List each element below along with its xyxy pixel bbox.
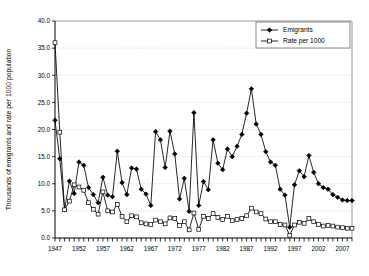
- legend-label: Rate per 1000: [283, 37, 325, 45]
- data-point: [235, 144, 240, 149]
- y-axis-label: Thousands of emigrants and rate per 1000…: [5, 48, 13, 210]
- data-point: [293, 223, 297, 227]
- data-point: [206, 217, 210, 221]
- data-point: [326, 224, 330, 228]
- x-axis: 1947195219571962196719721977198219871992…: [48, 238, 352, 252]
- data-point: [91, 207, 95, 211]
- x-tick-label: 1947: [48, 245, 63, 252]
- data-point: [292, 183, 297, 188]
- data-point: [144, 222, 148, 226]
- data-point: [264, 217, 268, 221]
- y-tick-label: 0.0: [41, 234, 50, 241]
- x-tick-label: 1997: [288, 245, 303, 252]
- data-point: [149, 223, 153, 227]
- data-point: [273, 220, 277, 224]
- x-tick-label: 2002: [311, 245, 326, 252]
- data-point: [154, 218, 158, 222]
- y-tick-label: 40.0: [38, 17, 51, 24]
- data-point: [172, 152, 177, 157]
- x-tick-label: 1987: [240, 245, 255, 252]
- data-point: [106, 209, 110, 213]
- data-point: [240, 132, 245, 137]
- legend-label: Emigrants: [283, 26, 313, 34]
- data-point: [53, 118, 58, 123]
- data-point: [111, 210, 115, 214]
- data-point: [197, 227, 201, 231]
- data-point: [321, 224, 325, 228]
- data-point: [101, 175, 106, 180]
- y-tick-label: 35.0: [38, 44, 51, 51]
- data-point: [135, 215, 139, 219]
- data-point: [105, 193, 110, 198]
- data-point: [134, 167, 139, 172]
- y-tick-label: 15.0: [38, 153, 51, 160]
- y-tick-label: 5.0: [41, 207, 50, 214]
- data-point: [96, 212, 100, 216]
- series-rate-per-1000: [53, 41, 354, 237]
- data-point: [263, 149, 268, 154]
- data-point: [345, 198, 350, 203]
- x-tick-label: 1977: [192, 245, 207, 252]
- data-point: [110, 194, 115, 199]
- data-point: [273, 163, 278, 168]
- data-point: [187, 228, 191, 232]
- data-point: [230, 154, 235, 159]
- data-point: [331, 224, 335, 228]
- data-point: [101, 190, 105, 194]
- data-point: [77, 185, 81, 189]
- x-tick-label: 1957: [96, 245, 111, 252]
- emigration-chart: 0.05.010.015.020.025.030.035.040.0 19471…: [0, 0, 369, 276]
- data-point: [311, 170, 316, 175]
- data-point: [182, 176, 187, 181]
- data-point: [192, 211, 196, 215]
- data-point: [221, 218, 225, 222]
- grid-group: [55, 48, 352, 211]
- data-point: [259, 132, 264, 137]
- data-point: [196, 203, 201, 208]
- data-point: [307, 153, 312, 158]
- data-point: [268, 39, 272, 43]
- data-point: [254, 210, 258, 214]
- data-point: [287, 225, 292, 230]
- data-point: [211, 212, 215, 216]
- data-point: [192, 110, 197, 115]
- data-point: [341, 226, 345, 230]
- data-point: [96, 200, 101, 205]
- data-point: [249, 87, 254, 92]
- data-point: [158, 220, 162, 224]
- data-point: [115, 149, 120, 154]
- data-point: [259, 212, 263, 216]
- data-point: [163, 222, 167, 226]
- data-point: [288, 233, 292, 237]
- y-tick-label: 10.0: [38, 180, 51, 187]
- data-point: [335, 195, 340, 200]
- data-point: [168, 216, 172, 220]
- data-point: [278, 223, 282, 227]
- data-point: [139, 221, 143, 225]
- data-point: [202, 214, 206, 218]
- data-point: [201, 179, 206, 184]
- data-point: [149, 203, 154, 208]
- data-point: [350, 198, 355, 203]
- data-point: [67, 179, 72, 184]
- data-point: [336, 225, 340, 229]
- data-point: [72, 183, 76, 187]
- data-point: [130, 214, 134, 218]
- data-point: [312, 220, 316, 224]
- data-point: [226, 214, 230, 218]
- data-point: [87, 201, 91, 205]
- data-point: [125, 220, 129, 224]
- data-point: [67, 199, 71, 203]
- data-point: [230, 219, 234, 223]
- x-tick-label: 1962: [120, 245, 135, 252]
- data-point: [182, 220, 186, 224]
- y-axis: 0.05.010.015.020.025.030.035.040.0: [38, 17, 55, 241]
- data-point: [269, 220, 273, 224]
- data-point: [173, 217, 177, 221]
- data-point: [244, 111, 249, 116]
- y-tick-label: 30.0: [38, 72, 51, 79]
- chart-canvas: 0.05.010.015.020.025.030.035.040.0 19471…: [0, 0, 369, 276]
- data-point: [129, 166, 134, 171]
- x-tick-label: 2007: [335, 245, 350, 252]
- legend: EmigrantsRate per 1000: [256, 22, 350, 48]
